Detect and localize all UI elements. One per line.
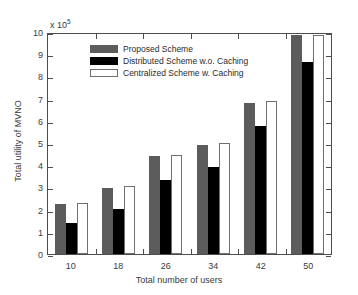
y-tick-label: 6: [21, 117, 43, 127]
x-tick-label: 42: [246, 261, 276, 271]
y-tick-label: 9: [21, 50, 43, 60]
legend-swatch: [90, 69, 118, 77]
bar-group: [284, 34, 331, 254]
y-tick-label: 4: [21, 161, 43, 171]
bar: [66, 223, 77, 254]
bar: [77, 203, 88, 254]
chart-legend: Proposed SchemeDistributed Scheme w.o. C…: [86, 40, 252, 82]
y-tick-label: 8: [21, 72, 43, 82]
bar: [208, 167, 219, 254]
legend-label: Distributed Scheme w.o. Caching: [123, 56, 248, 66]
y-tick-label: 7: [21, 95, 43, 105]
x-tick-label: 50: [293, 261, 323, 271]
legend-item: Distributed Scheme w.o. Caching: [90, 55, 248, 67]
bar-chart-figure: x 105 Total utility of MVNO Total number…: [0, 0, 358, 295]
bar: [219, 143, 230, 254]
x-tick-label: 18: [103, 261, 133, 271]
exponent-mantissa: x 10: [50, 20, 67, 30]
y-tick-label: 0: [21, 250, 43, 260]
x-tick-label: 10: [56, 261, 86, 271]
y-tick-label: 10: [21, 28, 43, 38]
bar: [266, 101, 277, 254]
bar: [149, 156, 160, 254]
x-axis-title: Total number of users: [0, 275, 358, 285]
y-tick-mark-right: [326, 256, 331, 257]
y-tick-label: 2: [21, 206, 43, 216]
bar: [102, 188, 113, 254]
bar: [160, 180, 171, 254]
legend-swatch: [90, 45, 118, 53]
exponent-power: 5: [67, 18, 71, 25]
y-tick-label: 1: [21, 228, 43, 238]
legend-label: Centralized Scheme w. Caching: [123, 68, 243, 78]
y-axis-exponent-label: x 105: [50, 18, 71, 30]
bar: [255, 126, 266, 254]
bar: [55, 204, 66, 254]
legend-label: Proposed Scheme: [123, 44, 193, 54]
y-tick-label: 5: [21, 139, 43, 149]
bar: [124, 186, 135, 254]
legend-item: Centralized Scheme w. Caching: [90, 67, 248, 79]
x-tick-label: 26: [151, 261, 181, 271]
bar: [291, 35, 302, 254]
y-tick-label: 3: [21, 183, 43, 193]
bar: [171, 155, 182, 254]
bar: [313, 35, 324, 254]
bar: [244, 103, 255, 254]
bar: [197, 145, 208, 254]
legend-swatch: [90, 57, 118, 65]
legend-item: Proposed Scheme: [90, 43, 248, 55]
bar: [113, 209, 124, 255]
bar: [302, 62, 313, 254]
x-tick-label: 34: [198, 261, 228, 271]
y-tick-mark: [48, 256, 53, 257]
